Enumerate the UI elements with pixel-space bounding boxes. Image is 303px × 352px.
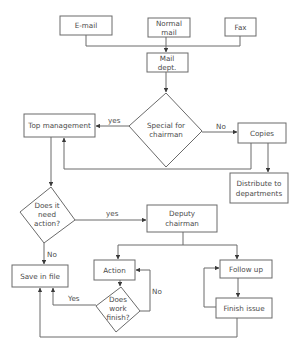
node-email-label: E-mail <box>75 21 98 30</box>
node-mail-dept-label-2: dept. <box>158 63 177 72</box>
node-distribute-label-1: Distribute to <box>237 179 282 188</box>
node-special-for-chairman[interactable]: Special for chairman <box>129 93 202 167</box>
edge-work-finish-no <box>136 270 150 311</box>
node-need-action-label-3: action? <box>34 219 60 228</box>
node-save-in-file[interactable]: Save in file <box>12 265 68 287</box>
node-finish-issue[interactable]: Finish issue <box>216 298 272 318</box>
edge-deputy-to-follow-up <box>183 245 237 259</box>
node-need-action-label-2: need <box>38 210 56 219</box>
node-deputy-label-2: chairman <box>165 219 199 228</box>
node-finish-issue-label: Finish issue <box>223 304 265 313</box>
flowchart-svg: E-mail Normal mail Fax Mail dept. Specia… <box>0 0 303 352</box>
node-top-management[interactable]: Top management <box>24 114 95 137</box>
edge-label-special-yes: yes <box>108 116 121 125</box>
edge-label-need-action-no: No <box>47 250 57 259</box>
edge-deputy-to-action <box>118 245 183 259</box>
node-special-label-2: chairman <box>149 130 183 139</box>
node-email[interactable]: E-mail <box>60 16 112 35</box>
flowchart-canvas: E-mail Normal mail Fax Mail dept. Specia… <box>0 0 303 352</box>
node-normal-mail-label-1: Normal <box>156 19 182 28</box>
node-follow-up-label: Follow up <box>229 265 263 274</box>
edge-label-work-finish-yes: Yes <box>67 294 80 303</box>
edge-label-special-no: No <box>216 122 226 131</box>
node-need-action[interactable]: Does it need action? <box>20 187 75 243</box>
node-copies-label: Copies <box>250 129 274 138</box>
node-need-action-label-1: Does it <box>34 201 59 210</box>
node-mail-dept[interactable]: Mail dept. <box>147 53 188 72</box>
node-work-finish-label-2: work <box>109 304 127 313</box>
node-action-label: Action <box>103 266 126 275</box>
node-work-finish[interactable]: Does work finish? <box>96 287 140 332</box>
node-action[interactable]: Action <box>94 260 135 280</box>
node-distribute[interactable]: Distribute to departments <box>230 173 288 203</box>
node-distribute-label-2: departments <box>236 189 283 198</box>
node-normal-mail[interactable]: Normal mail <box>148 18 190 37</box>
node-work-finish-label-3: finish? <box>106 313 129 322</box>
node-copies[interactable]: Copies <box>238 123 286 143</box>
node-follow-up[interactable]: Follow up <box>220 260 272 278</box>
node-normal-mail-label-2: mail <box>161 28 176 37</box>
node-deputy-label-1: Deputy <box>169 209 196 218</box>
node-special-label-1: Special for <box>147 121 185 130</box>
node-top-management-label: Top management <box>27 121 91 130</box>
node-work-finish-label-1: Does <box>109 295 127 304</box>
edge-label-work-finish-no: No <box>152 287 162 296</box>
node-mail-dept-label-1: Mail <box>160 54 175 63</box>
node-fax[interactable]: Fax <box>225 18 256 36</box>
node-deputy-chairman[interactable]: Deputy chairman <box>147 205 217 232</box>
edge-label-need-action-yes: yes <box>106 209 119 218</box>
node-save-in-file-label: Save in file <box>20 272 60 281</box>
node-fax-label: Fax <box>234 23 247 32</box>
